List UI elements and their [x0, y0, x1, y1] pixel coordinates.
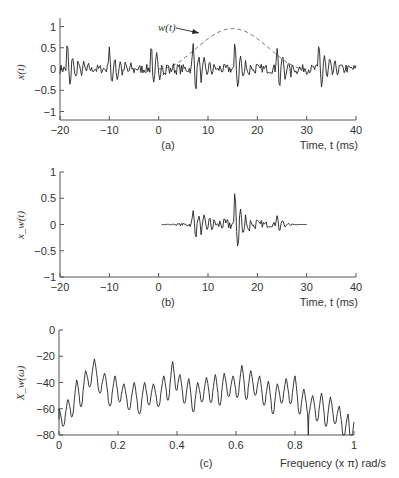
x-tick-label: 0.4 — [169, 439, 184, 451]
x-tick-label: 40 — [350, 124, 362, 136]
panel-b-xlabel: Time, t (ms) — [300, 296, 358, 308]
panel-b-label: (b) — [161, 296, 174, 308]
panel-a-xlabel: Time, t (ms) — [300, 139, 358, 151]
panel-c-axes — [59, 330, 354, 435]
arrow-head-icon — [192, 29, 199, 34]
panel-c-x-ticks: 00.20.40.60.81 — [56, 431, 357, 451]
y-tick-label: 1 — [50, 21, 56, 33]
x-tick-label: −20 — [51, 124, 70, 136]
x-tick-label: 30 — [301, 281, 313, 293]
y-tick-label: −20 — [36, 350, 55, 362]
window-curve — [159, 29, 307, 69]
y-tick-label: −1 — [43, 106, 56, 118]
x-tick-label: 0 — [156, 281, 162, 293]
y-tick-label: −60 — [36, 403, 55, 415]
figure: 10.50−0.5−1 −20−10010203040 x(t) w(t) (a… — [0, 0, 399, 478]
x-tick-label: −10 — [100, 124, 119, 136]
y-tick-label: −0.5 — [34, 84, 56, 96]
x-tick-label: 0.2 — [110, 439, 125, 451]
y-tick-label: −80 — [36, 429, 55, 441]
x-tick-label: 30 — [301, 124, 313, 136]
x-tick-label: −10 — [100, 281, 119, 293]
x-tick-label: 10 — [202, 124, 214, 136]
x-tick-label: 0.8 — [287, 439, 302, 451]
x-tick-label: −20 — [51, 281, 70, 293]
x-tick-label: 20 — [251, 124, 263, 136]
y-tick-label: 0.5 — [41, 192, 56, 204]
panel-b: 10.50−0.5−1 −20−10010203040 x_w(t) (b) T… — [14, 166, 362, 308]
signal-curve — [60, 44, 356, 89]
y-tick-label: 0 — [50, 219, 56, 231]
windowed-signal-curve — [162, 194, 307, 246]
x-tick-label: 20 — [251, 281, 263, 293]
panel-b-x-ticks: −20−10010203040 — [51, 273, 362, 293]
spectrum-curve — [59, 359, 354, 435]
y-tick-label: 0 — [49, 324, 55, 336]
panel-a-x-ticks: −20−10010203040 — [51, 116, 362, 136]
y-tick-label: 0.5 — [41, 42, 56, 54]
panel-a: 10.50−0.5−1 −20−10010203040 x(t) w(t) (a… — [14, 18, 362, 151]
y-tick-label: 1 — [50, 166, 56, 178]
y-tick-label: −0.5 — [34, 245, 56, 257]
x-tick-label: 0 — [56, 439, 62, 451]
panel-c-xlabel: Frequency (x π) rad/s — [280, 457, 387, 469]
y-tick-label: 0 — [50, 63, 56, 75]
panel-c: 0−20−40−60−80 00.20.40.60.81 X_w(ω) (c) … — [14, 324, 386, 469]
x-tick-label: 0 — [156, 124, 162, 136]
x-tick-label: 0.6 — [228, 439, 243, 451]
panel-a-label: (a) — [161, 139, 174, 151]
panel-b-ylabel: x_w(t) — [14, 211, 27, 240]
y-tick-label: −40 — [36, 377, 55, 389]
window-annotation: w(t) — [158, 21, 176, 34]
panel-c-ylabel: X_w(ω) — [14, 365, 27, 401]
panel-a-ylabel: x(t) — [14, 64, 27, 81]
x-tick-label: 10 — [202, 281, 214, 293]
x-tick-label: 1 — [351, 439, 357, 451]
panel-c-label: (c) — [200, 457, 213, 469]
x-tick-label: 40 — [350, 281, 362, 293]
